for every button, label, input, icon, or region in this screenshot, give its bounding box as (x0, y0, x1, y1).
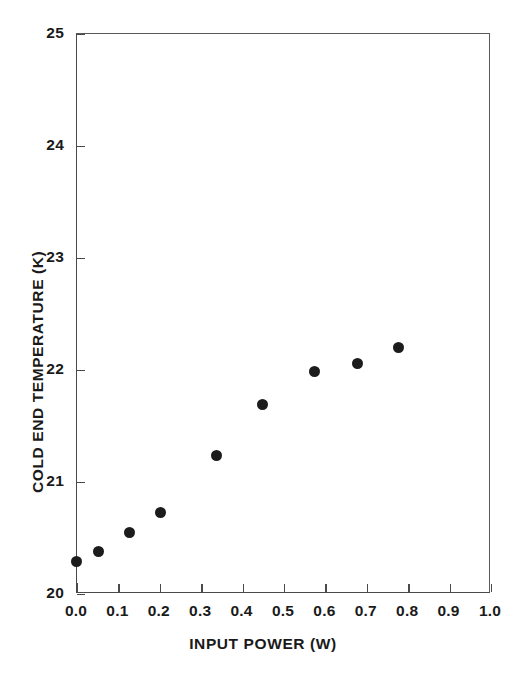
plot-area (76, 33, 490, 593)
y-axis-label: COLD END TEMPERATURE (K) (29, 251, 47, 493)
data-point (352, 358, 363, 369)
x-tick-label: 0.1 (106, 602, 128, 620)
y-tick-21 (77, 482, 85, 483)
x-tick-label: 1.0 (479, 602, 501, 620)
x-tick-0.5 (284, 584, 285, 592)
x-tick-label: 0.8 (396, 602, 418, 620)
y-tick-label: 20 (34, 584, 64, 602)
x-tick-0.8 (408, 584, 409, 592)
x-tick-1.0 (491, 584, 492, 592)
x-tick-0.6 (325, 584, 326, 592)
chart-figure: 0.00.10.20.30.40.50.60.70.80.91.0 202122… (0, 0, 526, 685)
data-point (211, 450, 222, 461)
x-tick-0.4 (243, 584, 244, 592)
y-tick-24 (77, 146, 85, 147)
x-tick-0.9 (450, 584, 451, 592)
x-tick-0.0 (77, 583, 78, 592)
y-tick-25 (77, 34, 85, 35)
x-tick-label: 0.6 (313, 602, 335, 620)
x-tick-label: 0.9 (438, 602, 460, 620)
y-tick-23 (77, 258, 85, 259)
data-point (71, 556, 82, 567)
x-tick-label: 0.3 (189, 602, 211, 620)
y-tick-label: 24 (34, 136, 64, 154)
x-tick-0.7 (367, 584, 368, 592)
x-axis-label: INPUT POWER (W) (0, 635, 526, 653)
x-tick-label: 0.0 (65, 602, 87, 620)
x-tick-label: 0.2 (148, 602, 170, 620)
x-tick-label: 0.7 (355, 602, 377, 620)
data-point (309, 366, 320, 377)
x-tick-0.2 (160, 584, 161, 592)
x-tick-label: 0.5 (272, 602, 294, 620)
y-tick-22 (77, 370, 85, 371)
x-tick-0.1 (118, 584, 119, 592)
y-tick-20 (77, 594, 85, 595)
x-tick-label: 0.4 (231, 602, 253, 620)
y-tick-label: 25 (34, 24, 64, 42)
x-tick-0.3 (201, 584, 202, 592)
